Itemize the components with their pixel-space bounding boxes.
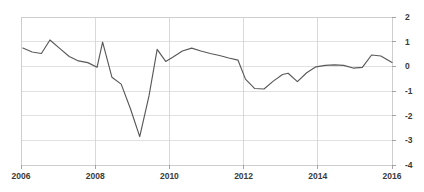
y-axis-tick-label: -2 [405,111,413,121]
gridlines-group [21,17,392,165]
x-axis-tick-label: 2012 [234,171,253,181]
x-axis-tick-label: 2008 [86,171,105,181]
chart-canvas: 210-1-2-3-4 200620082010201220142016 [0,0,424,192]
y-axis-tick-label: -1 [405,86,413,96]
axis-tickmarks [21,17,396,169]
x-axis-tick-label: 2016 [383,171,402,181]
line-chart: 210-1-2-3-4 200620082010201220142016 [0,0,424,192]
y-axis-tick-label: 1 [405,37,410,47]
y-axis-labels: 210-1-2-3-4 [405,12,413,170]
y-axis-tick-label: -4 [405,160,413,170]
x-axis-tick-label: 2014 [308,171,327,181]
data-line-series-1 [23,40,392,137]
x-axis-tick-label: 2010 [160,171,179,181]
x-axis-labels: 200620082010201220142016 [12,171,402,181]
data-series-line [23,40,392,137]
y-axis-tick-label: -3 [405,135,413,145]
y-axis-tick-label: 2 [405,12,410,22]
x-axis-tick-label: 2006 [12,171,31,181]
y-axis-tick-label: 0 [405,61,410,71]
